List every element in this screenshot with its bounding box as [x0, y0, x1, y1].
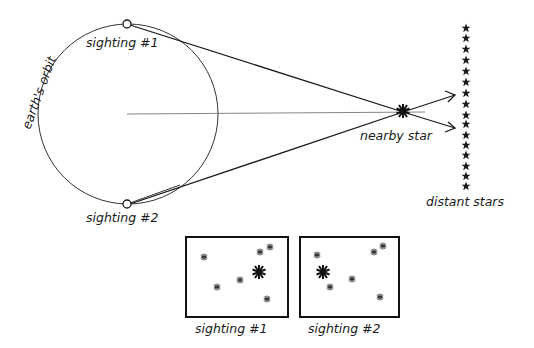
- sighting-1-label: sighting #1: [86, 35, 158, 50]
- panel-2-caption: sighting #2: [308, 321, 381, 336]
- panel-1-caption: sighting #1: [195, 321, 267, 336]
- distant-stars-column: [462, 24, 471, 191]
- sightline-1: [130, 25, 403, 112]
- arrow-line-2: [403, 112, 455, 128]
- parallax-diagram: sighting #1 sighting #2 earth's orbit ne…: [0, 0, 534, 348]
- sighting-1-panel: [186, 237, 288, 317]
- sighting-2-label: sighting #2: [86, 210, 159, 225]
- distant-stars-label: distant stars: [426, 194, 504, 209]
- nearby-star-label: nearby star: [360, 128, 433, 143]
- center-axis-line: [127, 112, 425, 114]
- sighting-2-marker: [123, 200, 131, 208]
- sighting-2-panel: [300, 237, 399, 317]
- earth-orbit-label: earth's orbit: [19, 53, 60, 131]
- arrow-line-1: [403, 95, 455, 112]
- sightline-2: [130, 112, 403, 204]
- sighting-1-marker: [123, 20, 131, 28]
